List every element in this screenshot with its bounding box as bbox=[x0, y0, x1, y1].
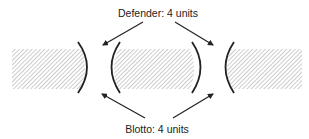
center-territory bbox=[114, 49, 194, 89]
defender-label: Defender: 4 units bbox=[118, 8, 198, 19]
blotto-arrow-right bbox=[173, 94, 213, 118]
defender-arrow-right bbox=[175, 22, 213, 45]
blotto-diagram bbox=[0, 0, 309, 139]
defender-arrow-left bbox=[103, 22, 143, 45]
left-territory bbox=[12, 49, 85, 89]
right-territory bbox=[227, 49, 302, 89]
blotto-label: Blotto: 4 units bbox=[125, 124, 189, 135]
blotto-arrow-left bbox=[102, 94, 145, 118]
